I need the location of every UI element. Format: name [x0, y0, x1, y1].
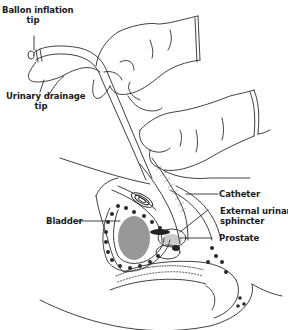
bladder-shading [118, 216, 150, 260]
upper-gloved-hand [93, 16, 200, 111]
label-line: sphincter [220, 216, 288, 226]
label-line: Ballon inflation [2, 5, 64, 15]
catheter-insertion-illustration: Ballon inflation tip Urinary drainage ti… [0, 0, 288, 330]
label-urinary-drainage-tip: Urinary drainage tip [6, 91, 76, 111]
label-line: External urinary [220, 206, 288, 216]
label-catheter: Catheter [219, 189, 260, 199]
label-line: tip [2, 15, 64, 25]
label-bladder: Bladder [46, 216, 83, 226]
anatomy-drawing [0, 0, 288, 330]
label-line: tip [6, 101, 76, 111]
label-line: Urinary drainage [6, 91, 76, 101]
label-balloon-inflation-tip: Ballon inflation tip [2, 5, 64, 25]
label-external-urinary-sphincter: External urinary sphincter [220, 206, 288, 226]
label-prostate: Prostate [219, 233, 259, 243]
lower-gloved-hand [139, 90, 270, 179]
